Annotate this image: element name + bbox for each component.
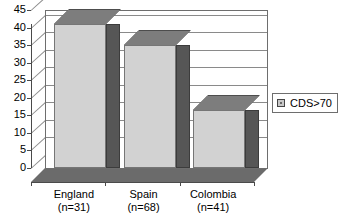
bar-colombia [193,110,245,168]
y-axis-tick-label: 35 [0,39,26,50]
chart-legend: CDS>70 [272,93,338,113]
x-axis-category-label: Colombia(n=41) [168,188,258,214]
y-axis-tick-label: 5 [0,144,26,155]
y-axis-tick-label: 25 [0,74,26,85]
category-sample-size: (n=41) [168,201,258,214]
bar-front-face [193,110,245,168]
y-axis-tick-label: 0 [0,162,26,173]
y-axis-tick-label: 15 [0,109,26,120]
y-axis-tick-label: 10 [0,127,26,138]
x-axis-tick [31,182,32,186]
chart-floor-face [31,168,268,182]
bar-spain [124,45,176,168]
chart-side-wall [31,10,46,168]
y-axis-tick [27,28,31,29]
category-name: Colombia [168,188,258,201]
bar-side-face [106,24,120,168]
y-axis-tick [27,150,31,151]
bar-front-face [54,24,106,168]
y-axis [31,24,32,168]
x-axis-tick [105,182,106,186]
chart-floor [31,168,268,182]
y-axis-tick-label: 40 [0,22,26,33]
bar-side-face [245,110,259,168]
y-axis-tick [27,80,31,81]
y-axis-tick [27,115,31,116]
y-axis-tick [27,133,31,134]
legend-item-label: CDS>70 [290,97,332,109]
y-axis-tick [27,63,31,64]
bar-england [54,24,106,168]
bar-front-face [124,45,176,168]
x-axis [31,182,254,183]
y-axis-tick [27,45,31,46]
x-axis-tick [254,182,255,186]
y-axis-tick [27,98,31,99]
chart-floor-top-edge [45,168,268,169]
y-axis-tick-label: 45 [0,4,26,15]
bar-side-face [176,45,190,168]
x-axis-tick [180,182,181,186]
y-axis-tick [27,10,31,11]
legend-swatch-icon [277,99,285,107]
y-axis-tick-label: 20 [0,92,26,103]
y-axis-tick-label: 30 [0,57,26,68]
